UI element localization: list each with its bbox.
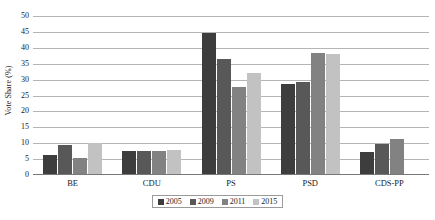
plot-area	[33, 16, 429, 175]
bar-be-2005[interactable]	[43, 155, 57, 175]
bar-psd-2005[interactable]	[281, 84, 295, 175]
bar-cdu-2011[interactable]	[152, 151, 166, 175]
y-axis-tick-label: 40	[21, 44, 29, 52]
x-axis-label-psd: PSD	[271, 177, 350, 191]
legend-item-2011[interactable]: 2011	[222, 197, 246, 206]
bar-cds-pp-2005[interactable]	[360, 152, 374, 175]
bar-cds-pp-2009[interactable]	[375, 144, 389, 175]
y-axis-title-label: Vote Share (%)	[4, 65, 13, 115]
x-axis-label-be: BE	[33, 177, 112, 191]
bar-ps-2015[interactable]	[247, 73, 261, 175]
legend-item-2005[interactable]: 2005	[158, 197, 182, 206]
bar-group-be	[33, 16, 112, 175]
bar-cdu-2015[interactable]	[167, 150, 181, 175]
legend-swatch-icon	[158, 199, 164, 205]
x-axis-line	[33, 174, 429, 175]
y-axis-tick-label: 0	[25, 171, 29, 179]
x-axis-label-cds-pp: CDS-PP	[350, 177, 429, 191]
y-axis-tick-label: 5	[25, 155, 29, 163]
bar-chart: Vote Share (%) 50454035302520151050 BECD…	[0, 0, 435, 220]
y-axis-tick-labels: 50454035302520151050	[13, 16, 31, 175]
y-axis-tick-label: 20	[21, 107, 29, 115]
legend-label: 2005	[166, 197, 182, 206]
bar-group-cdu	[112, 16, 191, 175]
bar-group-psd	[271, 16, 350, 175]
bar-cdu-2009[interactable]	[137, 151, 151, 175]
legend-label: 2011	[230, 197, 246, 206]
x-axis-label-cdu: CDU	[112, 177, 191, 191]
legend: 2005200920112015	[0, 195, 435, 208]
legend-label: 2009	[198, 197, 214, 206]
bar-psd-2009[interactable]	[296, 82, 310, 175]
bar-be-2011[interactable]	[73, 158, 87, 175]
bar-psd-2015[interactable]	[326, 54, 340, 175]
bar-ps-2005[interactable]	[202, 33, 216, 175]
bar-group-ps	[191, 16, 270, 175]
bar-psd-2011[interactable]	[311, 53, 325, 175]
bar-be-2015[interactable]	[88, 143, 102, 175]
y-axis-tick-label: 25	[21, 92, 29, 100]
bar-be-2009[interactable]	[58, 145, 72, 175]
bar-ps-2009[interactable]	[217, 59, 231, 175]
legend-swatch-icon	[253, 199, 259, 205]
y-axis-tick-label: 50	[21, 12, 29, 20]
legend-box: 2005200920112015	[152, 195, 284, 208]
y-axis-tick-label: 30	[21, 76, 29, 84]
legend-item-2015[interactable]: 2015	[253, 197, 277, 206]
y-axis-tick-label: 10	[21, 139, 29, 147]
bar-cds-pp-2011[interactable]	[390, 139, 404, 175]
y-axis-tick-label: 15	[21, 123, 29, 131]
y-axis-tick-label: 45	[21, 28, 29, 36]
y-axis-tick-label: 35	[21, 60, 29, 68]
bar-group-cds-pp	[350, 16, 429, 175]
x-axis-category-labels: BECDUPSPSDCDS-PP	[33, 177, 429, 191]
legend-item-2009[interactable]: 2009	[190, 197, 214, 206]
bar-ps-2011[interactable]	[232, 87, 246, 175]
legend-swatch-icon	[222, 199, 228, 205]
legend-label: 2015	[261, 197, 277, 206]
bar-groups	[33, 16, 429, 175]
bar-cdu-2005[interactable]	[122, 151, 136, 175]
x-axis-label-ps: PS	[191, 177, 270, 191]
legend-swatch-icon	[190, 199, 196, 205]
